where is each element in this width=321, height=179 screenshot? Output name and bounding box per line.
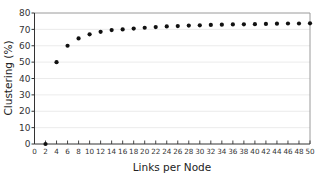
data-point (165, 24, 169, 28)
data-point (286, 21, 290, 25)
x-tick-label: 14 (107, 147, 117, 156)
y-tick-label: 10 (19, 123, 31, 133)
x-tick-label: 22 (151, 147, 160, 156)
x-tick-label: 44 (272, 147, 282, 156)
data-point (308, 21, 312, 25)
data-point (65, 44, 69, 48)
data-point (43, 142, 47, 146)
x-tick-label: 30 (195, 147, 205, 156)
x-tick-label: 32 (206, 147, 215, 156)
x-tick-label: 34 (217, 147, 227, 156)
y-tick-label: 60 (19, 41, 31, 51)
data-point (275, 22, 279, 26)
y-axis-ticks: 01020304050607080 (19, 8, 34, 149)
x-axis-title: Links per Node (133, 161, 212, 173)
y-tick-label: 50 (19, 57, 31, 67)
x-axis-ticks: 0246810121416182022242628303234363840424… (32, 141, 315, 156)
data-point (264, 22, 268, 26)
x-tick-label: 24 (162, 147, 172, 156)
data-point (220, 23, 224, 27)
y-tick-label: 0 (25, 139, 31, 149)
data-point (253, 22, 257, 26)
y-tick-label: 30 (19, 90, 31, 100)
data-point (54, 60, 58, 64)
data-point (297, 21, 301, 25)
data-point (110, 28, 114, 32)
data-point (176, 24, 180, 28)
data-point (99, 30, 103, 34)
y-tick-label: 40 (19, 74, 31, 84)
data-point (88, 32, 92, 36)
y-axis-title: Clustering (%) (2, 40, 14, 115)
y-tick-label: 80 (19, 8, 31, 18)
data-point (242, 22, 246, 26)
clustering-scatter-chart: 01020304050607080 0246810121416182022242… (0, 0, 321, 179)
x-tick-label: 6 (65, 147, 70, 156)
x-tick-label: 48 (294, 147, 304, 156)
x-tick-label: 20 (140, 147, 150, 156)
data-point (132, 26, 136, 30)
x-tick-label: 50 (305, 147, 315, 156)
x-tick-label: 28 (184, 147, 194, 156)
x-tick-label: 36 (228, 147, 238, 156)
data-point (121, 27, 125, 31)
x-tick-label: 46 (283, 147, 293, 156)
data-point (76, 36, 80, 40)
y-tick-label: 70 (19, 25, 31, 35)
data-point (143, 26, 147, 30)
x-tick-label: 4 (54, 147, 59, 156)
x-tick-label: 0 (32, 147, 37, 156)
data-point (198, 23, 202, 27)
x-tick-label: 42 (261, 147, 270, 156)
data-point (154, 25, 158, 29)
x-tick-label: 2 (43, 147, 48, 156)
x-tick-label: 40 (250, 147, 260, 156)
x-tick-label: 16 (118, 147, 128, 156)
data-point (187, 24, 191, 28)
x-tick-label: 12 (96, 147, 105, 156)
y-tick-label: 20 (19, 106, 31, 116)
x-tick-label: 10 (85, 147, 95, 156)
x-tick-label: 38 (239, 147, 249, 156)
data-point (231, 22, 235, 26)
gridlines (35, 29, 311, 127)
x-tick-label: 8 (76, 147, 81, 156)
x-tick-label: 18 (129, 147, 139, 156)
data-point (209, 23, 213, 27)
x-tick-label: 26 (173, 147, 183, 156)
